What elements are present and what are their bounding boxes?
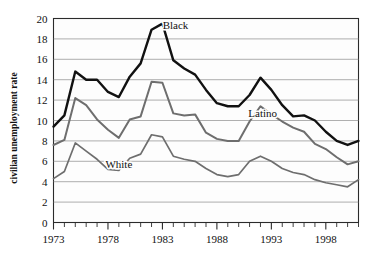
- y-tick-label: 4: [42, 176, 48, 188]
- x-tick-label: 1973: [43, 233, 66, 245]
- series-label-latino: Latino: [248, 107, 277, 119]
- y-tick-label: 20: [37, 13, 49, 25]
- y-tick-label: 6: [42, 155, 48, 167]
- y-axis-title-group: civilian unemployment rate: [9, 72, 19, 183]
- x-tick-label: 1993: [260, 233, 283, 245]
- y-tick-label: 16: [37, 53, 49, 65]
- y-tick-label: 12: [37, 94, 48, 106]
- x-tick-label: 1988: [206, 233, 229, 245]
- series-label-white: White: [105, 158, 132, 170]
- y-tick-label: 18: [37, 33, 49, 45]
- x-tick-label: 1983: [151, 233, 174, 245]
- y-tick-label: 8: [42, 135, 48, 147]
- y-tick-label: 2: [42, 196, 48, 208]
- y-axis-title: civilian unemployment rate: [9, 72, 19, 183]
- y-tick-label: 14: [37, 74, 49, 86]
- series-label-black: Black: [163, 19, 189, 31]
- x-tick-label: 1998: [315, 233, 338, 245]
- chart-figure: 02468101214161820 1973197819831988199319…: [0, 0, 380, 268]
- x-tick-label: 1978: [97, 233, 120, 245]
- y-tick-label: 0: [42, 217, 48, 229]
- y-tick-label: 10: [37, 115, 49, 127]
- unemployment-line-chart: 02468101214161820 1973197819831988199319…: [0, 0, 380, 268]
